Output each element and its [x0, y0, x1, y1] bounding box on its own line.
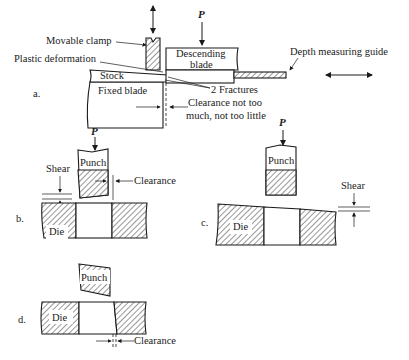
panel-a-label: a. [33, 88, 40, 99]
die-b-right [112, 203, 147, 238]
movable-clamp-label: Movable clamp [46, 35, 112, 46]
die-b-label: Die [49, 226, 65, 237]
die-d-label: Die [52, 312, 68, 323]
fractures-label: 2 Fractures [211, 84, 258, 95]
clearance-label-a-1: Clearance not too [188, 97, 262, 108]
die-d-right [114, 302, 146, 334]
stock-label: Stock [100, 70, 125, 81]
movable-clamp [146, 38, 160, 70]
panel-d-label: d. [18, 314, 26, 325]
shearing-punching-diagram: a. Fixed blade Stock Movable clamp Desce… [0, 0, 409, 360]
punch-b-label: Punch [80, 157, 107, 168]
descending-blade-label-1: Descending [176, 48, 226, 59]
panel-c: c. P Punch Die Shear [201, 116, 370, 245]
panel-b-label: b. [16, 213, 24, 224]
panel-c-label: c. [201, 217, 208, 228]
die-d-opening [79, 302, 117, 334]
punch-d-label: Punch [81, 272, 108, 283]
die-b-opening [76, 203, 112, 238]
panel-a: a. Fixed blade Stock Movable clamp Desce… [14, 6, 388, 128]
force-p-a: P [198, 8, 205, 20]
clearance-b-label: Clearance [134, 175, 176, 186]
panel-d: d. Punch Die Clearance [18, 264, 176, 348]
shear-b-label: Shear [46, 163, 70, 174]
die-c-label: Die [233, 221, 249, 232]
die-c-opening [264, 207, 300, 245]
punch-c-label: Punch [268, 155, 295, 166]
depth-measuring-guide [234, 72, 286, 78]
clearance-label-a-2: much, not too little [186, 110, 266, 121]
force-p-c: P [279, 116, 286, 128]
depth-guide-label: Depth measuring guide [290, 46, 388, 57]
shear-c-label: Shear [341, 180, 365, 191]
fixed-blade-label: Fixed blade [98, 85, 148, 96]
descending-blade-label-2: blade [190, 59, 213, 70]
die-c-right [300, 209, 336, 245]
force-p-b: P [91, 125, 98, 137]
clearance-d-label: Clearance [134, 335, 176, 346]
plastic-deformation-label: Plastic deformation [14, 53, 97, 64]
panel-b: b. P Punch Clearance Shear Die [16, 125, 176, 239]
